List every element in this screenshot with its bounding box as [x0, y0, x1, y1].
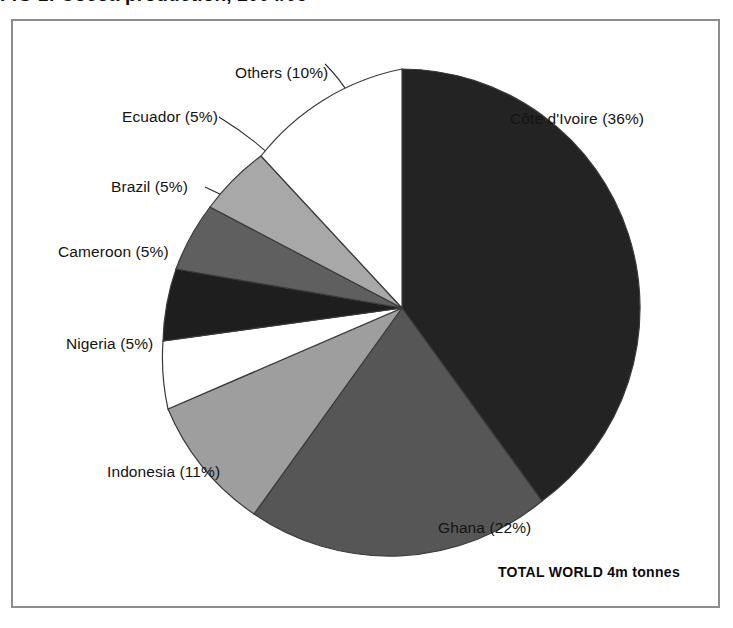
- pie-label-indonesia: Indonesia (11%): [107, 463, 220, 481]
- figure-title: FIG 1: Cocoa production, 2004/05: [0, 0, 307, 6]
- pie-chart: [13, 21, 718, 606]
- pie-label-cameroon: Cameroon (5%): [58, 243, 169, 261]
- chart-frame: Others (10%) Côte d'Ivoire (36%) Ecuador…: [11, 19, 720, 608]
- total-world-annotation: TOTAL WORLD 4m tonnes: [498, 564, 680, 580]
- pie-slices: [162, 69, 640, 556]
- figure-title-clip: FIG 1: Cocoa production, 2004/05: [0, 0, 733, 14]
- pie-label-others: Others (10%): [235, 64, 328, 82]
- pie-label-brazil: Brazil (5%): [111, 178, 188, 196]
- pie-label-ghana: Ghana (22%): [438, 519, 531, 537]
- pie-label-nigeria: Nigeria (5%): [66, 335, 153, 353]
- pie-label-ecuador: Ecuador (5%): [122, 108, 218, 126]
- pie-label-cote-divoire: Côte d'Ivoire (36%): [510, 110, 644, 128]
